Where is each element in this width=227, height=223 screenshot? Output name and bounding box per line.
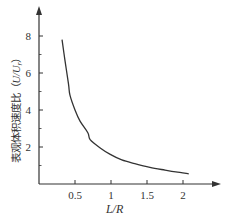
y-axis-title: 表观体积速度比（U/Ur） [10, 53, 24, 164]
x-tick-label: 1 [108, 189, 114, 201]
y-tick-label: 4 [26, 104, 32, 116]
x-tick-label: 2 [180, 189, 186, 201]
x-axis-arrow-icon [212, 181, 221, 187]
ticks [39, 36, 183, 184]
axes [36, 6, 221, 187]
data-curve [62, 40, 189, 174]
y-axis-arrow-icon [36, 6, 42, 15]
x-tick-label: 0.5 [68, 189, 82, 201]
y-tick-label: 2 [26, 141, 32, 153]
chart: 0.511.522468L/R表观体积速度比（U/Ur） [0, 0, 227, 223]
x-axis-title: L/R [105, 202, 124, 216]
y-tick-label: 8 [26, 30, 32, 42]
y-tick-label: 6 [26, 67, 32, 79]
labels: 0.511.522468L/R表观体积速度比（U/Ur） [10, 30, 186, 216]
series [62, 40, 189, 174]
x-tick-label: 1.5 [140, 189, 154, 201]
